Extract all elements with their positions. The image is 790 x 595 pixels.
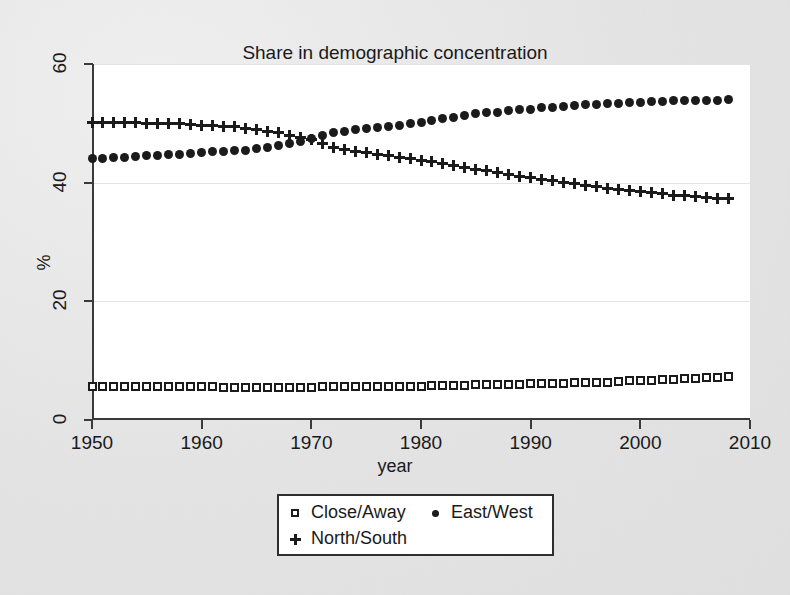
data-point bbox=[614, 99, 623, 108]
data-point bbox=[548, 103, 557, 112]
data-point bbox=[592, 378, 601, 387]
data-point bbox=[625, 98, 634, 107]
data-point bbox=[361, 147, 372, 158]
data-point bbox=[88, 154, 97, 163]
data-point bbox=[460, 381, 469, 390]
data-point bbox=[417, 382, 426, 391]
data-point bbox=[230, 383, 239, 392]
data-point bbox=[493, 108, 502, 117]
data-point bbox=[196, 120, 207, 131]
data-point bbox=[723, 193, 734, 204]
data-point bbox=[646, 187, 657, 198]
y-axis-tick-label-60: 60 bbox=[49, 43, 71, 83]
data-point bbox=[525, 172, 536, 183]
legend-label: Close/Away bbox=[311, 502, 406, 523]
data-point bbox=[449, 381, 458, 390]
data-point bbox=[152, 118, 163, 129]
data-point bbox=[712, 193, 723, 204]
x-axis-tick bbox=[310, 420, 312, 429]
data-point bbox=[317, 138, 328, 149]
data-point bbox=[362, 124, 371, 133]
data-point bbox=[514, 171, 525, 182]
data-point bbox=[702, 96, 711, 105]
data-point bbox=[362, 382, 371, 391]
data-point bbox=[437, 158, 448, 169]
y-axis-tick-label-20: 20 bbox=[49, 280, 71, 320]
data-point bbox=[504, 380, 513, 389]
data-point bbox=[207, 120, 218, 131]
data-point bbox=[657, 188, 668, 199]
data-point bbox=[384, 382, 393, 391]
data-point bbox=[229, 121, 240, 132]
data-point bbox=[98, 382, 107, 391]
data-point bbox=[142, 382, 151, 391]
data-point bbox=[614, 377, 623, 386]
data-point bbox=[426, 156, 437, 167]
data-point bbox=[503, 169, 514, 180]
x-axis-tick bbox=[201, 420, 203, 429]
data-point bbox=[448, 160, 459, 171]
data-point bbox=[208, 382, 217, 391]
data-point bbox=[273, 127, 284, 138]
data-point bbox=[340, 127, 349, 136]
data-point bbox=[690, 191, 701, 202]
data-point bbox=[526, 379, 535, 388]
data-point bbox=[427, 381, 436, 390]
data-point bbox=[570, 101, 579, 110]
data-point bbox=[581, 378, 590, 387]
data-point bbox=[295, 132, 306, 143]
data-point bbox=[351, 125, 360, 134]
y-axis-tick-label-40: 40 bbox=[49, 162, 71, 202]
data-point bbox=[603, 378, 612, 387]
data-point bbox=[318, 382, 327, 391]
data-point bbox=[680, 374, 689, 383]
data-point bbox=[636, 98, 645, 107]
data-point bbox=[691, 374, 700, 383]
data-point bbox=[625, 376, 634, 385]
data-point bbox=[515, 380, 524, 389]
data-point bbox=[174, 118, 185, 129]
legend-marker-glyph bbox=[291, 509, 299, 517]
x-axis-tick-label-2000: 2000 bbox=[610, 432, 670, 454]
data-point bbox=[482, 380, 491, 389]
data-point bbox=[186, 149, 195, 158]
data-point bbox=[537, 379, 546, 388]
data-point bbox=[636, 376, 645, 385]
x-axis-tick bbox=[749, 420, 751, 429]
chart-figure: Share in demographic concentration 02040… bbox=[0, 0, 790, 595]
data-point bbox=[493, 380, 502, 389]
x-axis-tick-label-1990: 1990 bbox=[501, 432, 561, 454]
x-axis-tick-label-1950: 1950 bbox=[62, 432, 122, 454]
data-point bbox=[197, 148, 206, 157]
data-point bbox=[492, 167, 503, 178]
data-point bbox=[669, 375, 678, 384]
data-point bbox=[88, 382, 97, 391]
data-point bbox=[691, 96, 700, 105]
data-point bbox=[559, 379, 568, 388]
data-point bbox=[570, 378, 579, 387]
data-point bbox=[658, 375, 667, 384]
data-point bbox=[307, 383, 316, 392]
data-point bbox=[713, 373, 722, 382]
data-point bbox=[306, 134, 317, 145]
data-point bbox=[406, 119, 415, 128]
x-axis-tick bbox=[420, 420, 422, 429]
data-point bbox=[219, 383, 228, 392]
legend: Close/AwayEast/WestNorth/South bbox=[277, 494, 554, 556]
x-axis-title: year bbox=[0, 456, 790, 477]
data-point bbox=[340, 382, 349, 391]
data-point bbox=[713, 96, 722, 105]
data-point bbox=[284, 130, 295, 141]
data-point bbox=[87, 117, 98, 128]
data-point bbox=[328, 142, 339, 153]
data-point bbox=[164, 382, 173, 391]
data-point bbox=[580, 180, 591, 191]
data-point bbox=[339, 144, 350, 155]
data-point bbox=[701, 192, 712, 203]
data-point bbox=[383, 150, 394, 161]
data-point bbox=[536, 174, 547, 185]
x-axis-tick-label-1970: 1970 bbox=[281, 432, 341, 454]
data-point bbox=[262, 126, 273, 137]
data-point bbox=[679, 190, 690, 201]
data-point bbox=[438, 381, 447, 390]
